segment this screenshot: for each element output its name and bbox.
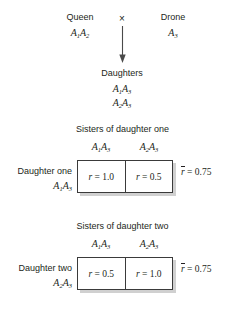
- queen-genotype-text: A1A2: [71, 27, 90, 38]
- panel-2-row-label: Daughter two: [2, 263, 72, 274]
- panel-2-cell-1-text: r = 0.5: [88, 269, 114, 279]
- drone-label: Drone: [142, 12, 204, 23]
- panel-1-matrix: r = 1.0 r = 0.5: [77, 160, 173, 193]
- panel-2-row-genotype: A2A3: [2, 277, 72, 289]
- panel-1-title: Sisters of daughter one: [45, 124, 200, 135]
- drone-genotype: A3: [142, 27, 204, 39]
- panel-1-row-label: Daughter one: [2, 166, 72, 177]
- drone-genotype-text: A3: [168, 27, 177, 38]
- panel-1-cell-1: r = 1.0: [78, 161, 125, 192]
- daughter-genotype-1: A1A3: [62, 83, 182, 95]
- panel-1-mean-r: r = 0.75: [181, 166, 211, 177]
- daughter-genotype-2: A2A3: [62, 97, 182, 109]
- panel-1-cell-2: r = 0.5: [125, 161, 173, 192]
- panel-2-cell-1: r = 0.5: [78, 258, 125, 289]
- panel-2-title: Sisters of daughter two: [45, 221, 200, 232]
- panel-2-mean-r: r = 0.75: [181, 263, 211, 274]
- down-arrow-icon: [118, 26, 127, 64]
- panel-2-col-header-1: A1A3: [77, 238, 125, 250]
- panel-2-cell-2: r = 1.0: [125, 258, 173, 289]
- panel-1-cell-2-text: r = 0.5: [136, 172, 162, 182]
- figure-root: { "figure": { "cross": { "parent_left": …: [0, 0, 245, 315]
- queen-label: Queen: [49, 12, 111, 23]
- daughters-label: Daughters: [62, 68, 182, 79]
- panel-2-cell-2-text: r = 1.0: [136, 269, 162, 279]
- queen-genotype: A1A2: [49, 27, 111, 39]
- panel-1-col-header-1: A1A3: [77, 141, 125, 153]
- panel-2-matrix: r = 0.5 r = 1.0: [77, 257, 173, 290]
- panel-1-cell-1-text: r = 1.0: [88, 172, 114, 182]
- panel-2-col-header-2: A2A3: [125, 238, 173, 250]
- cross-operator-symbol: ×: [108, 14, 136, 24]
- panel-1-row-genotype: A1A3: [2, 180, 72, 192]
- panel-1-col-header-2: A2A3: [125, 141, 173, 153]
